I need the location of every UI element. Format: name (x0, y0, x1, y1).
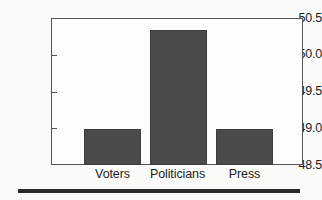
bottom-separator-rule (18, 189, 300, 193)
x-axis-tick-label: Politicians (142, 168, 213, 181)
bar-politicians (150, 30, 207, 165)
bar-press (216, 129, 273, 165)
bar-voters (84, 129, 141, 165)
x-axis-tick-label: Voters (84, 168, 141, 181)
plot-area (51, 18, 303, 165)
x-axis-tick-label: Press (216, 168, 273, 181)
bar-chart-figure: 50.5 50.0 49.5 49.0 48.5 Voters Politici… (0, 0, 322, 200)
